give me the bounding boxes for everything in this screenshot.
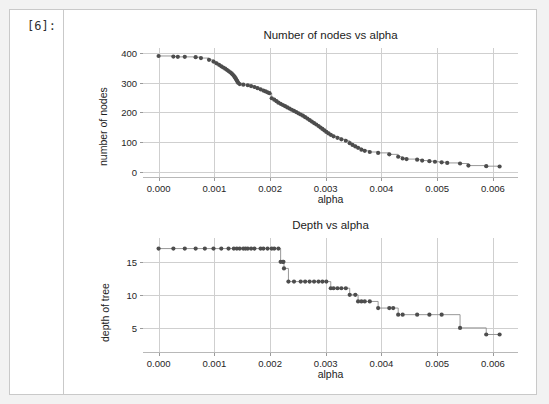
data-point-marker xyxy=(440,160,444,164)
data-point-marker xyxy=(261,246,265,250)
y-tick-mark xyxy=(140,172,143,173)
data-point-marker xyxy=(292,280,296,284)
data-point-marker xyxy=(281,260,285,264)
x-axis-label-depth: alpha xyxy=(143,368,518,380)
data-point-marker xyxy=(415,313,419,317)
data-point-marker xyxy=(157,246,161,250)
data-point-marker xyxy=(207,58,211,62)
y-tick-mark xyxy=(140,262,143,263)
data-point-marker xyxy=(252,246,256,250)
data-point-marker xyxy=(466,163,470,167)
data-point-marker xyxy=(404,157,408,161)
data-point-marker xyxy=(484,332,488,336)
x-tick-mark xyxy=(214,178,215,181)
data-point-marker xyxy=(303,280,307,284)
y-tick-mark xyxy=(140,295,143,296)
plot-area-nodes xyxy=(143,48,518,178)
chart-nodes-vs-alpha: Number of nodes vs alpha 0.0000.0010.002… xyxy=(143,48,518,178)
y-tick-label: 5 xyxy=(115,322,137,333)
execution-count-label: [6]: xyxy=(27,19,56,33)
y-tick-mark xyxy=(140,83,143,84)
data-point-marker xyxy=(194,246,198,250)
x-axis-line-nodes xyxy=(143,177,518,178)
data-point-marker xyxy=(183,55,187,59)
data-point-marker xyxy=(203,246,207,250)
y-tick-mark xyxy=(140,112,143,113)
y-axis-label-depth: depth of tree xyxy=(99,283,111,342)
y-tick-mark xyxy=(140,142,143,143)
x-tick-mark xyxy=(493,178,494,181)
chart-depth-vs-alpha: Depth vs alpha 0.0000.0010.0020.0030.004… xyxy=(143,238,518,353)
data-point-marker xyxy=(219,246,223,250)
data-point-marker xyxy=(238,82,242,86)
data-point-marker xyxy=(363,149,367,153)
data-point-marker xyxy=(498,164,502,168)
data-point-marker xyxy=(498,332,502,336)
data-point-marker xyxy=(286,280,290,284)
x-axis-label-nodes: alpha xyxy=(143,193,518,205)
x-tick-mark xyxy=(437,178,438,181)
y-tick-label: 100 xyxy=(115,136,137,147)
data-point-marker xyxy=(387,306,391,310)
data-point-marker xyxy=(324,280,328,284)
prompt-gutter: [6]: xyxy=(10,10,64,394)
data-point-marker xyxy=(157,54,161,58)
x-tick-mark xyxy=(270,178,271,181)
x-tick-mark xyxy=(270,353,271,356)
data-point-marker xyxy=(427,159,431,163)
data-point-marker xyxy=(401,156,405,160)
data-point-marker xyxy=(194,55,198,59)
series-nodes xyxy=(143,48,518,178)
data-point-marker xyxy=(391,306,395,310)
data-point-marker xyxy=(320,280,324,284)
data-point-marker xyxy=(415,158,419,162)
x-tick-mark xyxy=(381,178,382,181)
data-point-marker xyxy=(484,164,488,168)
data-point-marker xyxy=(265,246,269,250)
data-point-marker xyxy=(445,161,449,165)
data-point-marker xyxy=(433,160,437,164)
data-point-marker xyxy=(226,246,230,250)
x-tick-mark xyxy=(437,353,438,356)
data-point-marker xyxy=(183,246,187,250)
data-point-marker xyxy=(396,313,400,317)
series-step-line xyxy=(159,56,500,167)
cell-output-area: Number of nodes vs alpha 0.0000.0010.002… xyxy=(65,10,536,394)
plot-area-depth xyxy=(143,238,518,353)
data-point-marker xyxy=(363,299,367,303)
data-point-marker xyxy=(348,293,352,297)
x-tick-mark xyxy=(159,178,160,181)
data-point-marker xyxy=(276,246,280,250)
y-tick-label: 0 xyxy=(115,166,137,177)
notebook-output-cell: [6]: Number of nodes vs alpha 0.0000.001… xyxy=(9,9,537,395)
y-tick-label: 15 xyxy=(115,256,137,267)
data-point-marker xyxy=(331,286,335,290)
data-point-marker xyxy=(458,161,462,165)
data-point-marker xyxy=(199,56,203,60)
x-tick-mark xyxy=(159,353,160,356)
data-point-marker xyxy=(339,137,343,141)
data-point-marker xyxy=(427,313,431,317)
x-tick-mark xyxy=(326,178,327,181)
series-depth xyxy=(143,238,518,353)
data-point-marker xyxy=(420,158,424,162)
data-point-marker xyxy=(241,83,245,87)
data-point-marker xyxy=(331,134,335,138)
data-point-marker xyxy=(335,136,339,140)
data-point-marker xyxy=(344,139,348,143)
y-tick-label: 10 xyxy=(115,289,137,300)
matplotlib-figure: Number of nodes vs alpha 0.0000.0010.002… xyxy=(65,10,538,394)
data-point-marker xyxy=(396,155,400,159)
x-tick-mark xyxy=(326,353,327,356)
chart-title-nodes: Number of nodes vs alpha xyxy=(143,29,518,41)
screenshot-root: [6]: Number of nodes vs alpha 0.0000.001… xyxy=(0,0,549,404)
data-point-marker xyxy=(458,326,462,330)
data-point-marker xyxy=(353,293,357,297)
data-point-marker xyxy=(401,313,405,317)
data-point-marker xyxy=(171,54,175,58)
chart-title-depth: Depth vs alpha xyxy=(143,219,518,231)
data-point-marker xyxy=(368,150,372,154)
data-point-marker xyxy=(387,152,391,156)
data-point-marker xyxy=(308,280,312,284)
data-point-marker xyxy=(376,151,380,155)
